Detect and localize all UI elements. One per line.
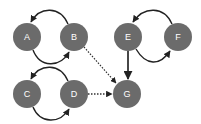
node-g: G	[113, 80, 141, 108]
node-g-label: G	[123, 89, 130, 99]
graph-canvas: A B E F C D G	[0, 0, 201, 124]
edge-b-to-a	[31, 10, 68, 24]
node-c: C	[13, 80, 41, 108]
edge-a-to-b	[33, 50, 69, 64]
node-d: D	[60, 80, 88, 108]
edge-d-to-c	[31, 67, 68, 81]
nodes: A B E F C D G	[13, 23, 192, 108]
node-e: E	[114, 23, 142, 51]
node-f: F	[164, 23, 192, 51]
node-c-label: C	[24, 89, 31, 99]
node-a-label: A	[24, 32, 30, 42]
edge-c-to-d	[33, 107, 69, 120]
edge-f-to-e	[133, 10, 172, 24]
node-f-label: F	[175, 32, 181, 42]
edges	[31, 10, 172, 120]
node-a: A	[13, 23, 41, 51]
edge-e-to-f	[136, 49, 170, 62]
node-b-label: B	[71, 32, 77, 42]
node-d-label: D	[71, 89, 78, 99]
edge-b-to-g	[84, 47, 116, 83]
node-b: B	[60, 23, 88, 51]
node-e-label: E	[125, 32, 131, 42]
